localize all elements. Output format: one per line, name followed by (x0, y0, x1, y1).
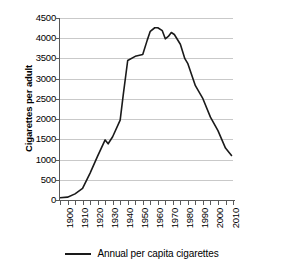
x-axis-tick-mark (158, 201, 159, 205)
series-line (60, 28, 232, 198)
x-axis-tick-mark (180, 201, 181, 205)
x-axis-tick-mark (128, 201, 129, 205)
x-axis-tick-mark (218, 201, 219, 205)
y-axis-tick-mark (55, 99, 60, 100)
y-axis-tick-label: 4000 (22, 33, 56, 43)
y-axis-tick-labels: 050010001500200025003000350040004500 (22, 0, 56, 272)
x-axis-tick-mark (210, 201, 211, 205)
x-axis-tick-label: 1950 (139, 208, 150, 228)
x-axis-tick-mark (135, 201, 136, 205)
x-axis-tick-label: 2010 (230, 208, 241, 228)
x-axis-tick-label: 2000 (214, 208, 225, 228)
x-axis-tick-mark (173, 201, 174, 205)
y-axis-tick-mark (55, 139, 60, 140)
y-axis-tick-mark (55, 180, 60, 181)
x-axis-tick-label: 1970 (169, 208, 180, 228)
x-axis-tick-mark (233, 201, 234, 205)
y-axis-tick-label: 4500 (22, 13, 56, 23)
y-axis-tick-mark (55, 119, 60, 120)
chart-legend: Annual per capita cigarettes (0, 248, 284, 259)
x-axis-tick-label: 1980 (184, 208, 195, 228)
legend-line-swatch (65, 253, 91, 255)
y-axis-tick-label: 2000 (22, 114, 56, 124)
x-axis-tick-mark (113, 201, 114, 205)
x-axis-tick-mark (226, 201, 227, 205)
x-axis-tick-label: 1930 (109, 208, 120, 228)
x-axis-tick-label: 1920 (94, 208, 105, 228)
x-axis-tick-mark (98, 201, 99, 205)
x-axis-tick-label: 1940 (124, 208, 135, 228)
x-axis-tick-mark (105, 201, 106, 205)
y-axis-tick-label: 3000 (22, 74, 56, 84)
x-axis-tick-label: 1990 (199, 208, 210, 228)
y-axis-tick-label: 2500 (22, 94, 56, 104)
y-axis-tick-label: 0 (22, 195, 56, 205)
y-axis-tick-mark (55, 18, 60, 19)
x-axis-tick-mark (165, 201, 166, 205)
x-axis-tick-mark (143, 201, 144, 205)
x-axis-line (59, 200, 235, 201)
legend-item-label: Annual per capita cigarettes (97, 248, 218, 259)
x-axis-tick-label: 1960 (154, 208, 165, 228)
chart-container: Cigarettes per adult 0500100015002000250… (0, 0, 284, 272)
x-axis-tick-mark (120, 201, 121, 205)
y-axis-line (59, 18, 60, 201)
data-series-layer (60, 18, 233, 200)
x-axis-tick-label: 1900 (64, 208, 75, 228)
x-axis-tick-mark (188, 201, 189, 205)
y-axis-tick-label: 1500 (22, 134, 56, 144)
y-axis-tick-label: 3500 (22, 53, 56, 63)
plot-area (60, 18, 233, 200)
y-axis-tick-mark (55, 58, 60, 59)
x-axis-tick-mark (60, 201, 61, 205)
y-axis-tick-label: 1000 (22, 155, 56, 165)
x-axis-tick-mark (75, 201, 76, 205)
y-axis-tick-label: 500 (22, 175, 56, 185)
y-axis-tick-mark (55, 38, 60, 39)
x-axis-tick-label: 1910 (79, 208, 90, 228)
x-axis-tick-mark (90, 201, 91, 205)
x-axis-tick-mark (68, 201, 69, 205)
x-axis-tick-mark (195, 201, 196, 205)
x-axis-tick-mark (203, 201, 204, 205)
y-axis-tick-mark (55, 79, 60, 80)
x-axis-tick-mark (83, 201, 84, 205)
x-axis-tick-mark (150, 201, 151, 205)
y-axis-tick-mark (55, 160, 60, 161)
